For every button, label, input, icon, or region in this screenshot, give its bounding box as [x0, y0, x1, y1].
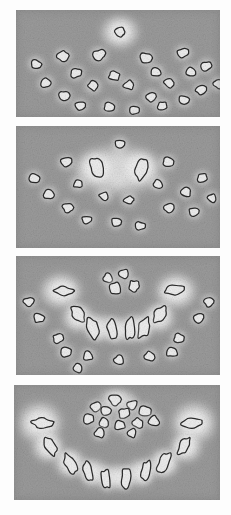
- ct-panel-b: [16, 126, 220, 248]
- figure-container: [0, 0, 231, 515]
- ct-panel-d: [14, 385, 220, 500]
- ct-panel-a: [16, 10, 220, 117]
- ct-panel-c: [16, 256, 220, 375]
